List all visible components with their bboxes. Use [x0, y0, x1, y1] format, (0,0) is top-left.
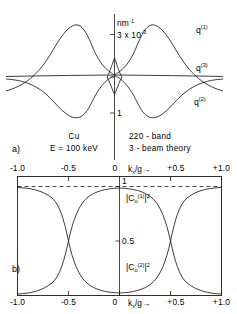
curve-label-q2: q(2) [194, 96, 206, 107]
panel-b-top-xtick-label-4: +1.0 [213, 163, 230, 173]
panel-a-unit-label: nm-1 [117, 18, 134, 28]
panel-b: -1.0 -0.5 0 +0.5 +1.0 kx/g→ -1.0 -0.5 0 … [10, 163, 230, 309]
annotation-material: Cu [68, 132, 79, 141]
figure-container: nm-1 3 x 10-3 1 q(1) q(3) q(2) Cu E = 10… [0, 0, 237, 314]
panel-b-top-xtick-label-3: +0.5 [167, 163, 184, 173]
panel-b-top-xtick-label-1: -0.5 [61, 163, 76, 173]
curve-label-q3: q(3) [196, 62, 208, 73]
panel-a-label: a) [12, 144, 20, 154]
panel-b-top-x-axis-label: kx/g→ [128, 164, 150, 175]
panel-a-tick-top-label: 3 x 10-3 [117, 29, 146, 39]
panel-b-ytick-label-0.5: 0.5 [122, 236, 134, 246]
figure-svg: nm-1 3 x 10-3 1 q(1) q(3) q(2) Cu E = 10… [0, 0, 237, 314]
panel-b-bottom-xtick-label-0: -1.0 [10, 297, 25, 307]
panel-b-top-xtick-label-0: -1.0 [10, 163, 25, 173]
panel-b-bottom-xtick-label-3: +0.5 [167, 297, 184, 307]
panel-a: nm-1 3 x 10-3 1 q(1) q(3) q(2) Cu E = 10… [6, 14, 223, 160]
panel-b-bottom-xtick-label-2: 0 [113, 297, 118, 307]
panel-b-top-xtick-label-2: 0 [113, 163, 118, 173]
panel-b-bottom-x-axis-label: kx/g→ [128, 298, 150, 309]
curve-label-Co1-squared: |Co(1)|2 [126, 193, 150, 205]
curve-label-q1: q(1) [196, 24, 208, 35]
annotation-energy: E = 100 keV [50, 144, 98, 153]
panel-b-bottom-xtick-label-1: -0.5 [61, 297, 76, 307]
panel-b-label: b) [12, 264, 20, 274]
annotation-theory: 3 - beam theory [129, 144, 191, 153]
panel-b-bottom-xtick-label-4: +1.0 [213, 297, 230, 307]
panel-b-ytick-label-1: 1 [122, 176, 127, 186]
curve-label-Co2-squared: |Co(2)|2 [126, 262, 150, 274]
annotation-band: 220 - band [129, 132, 171, 141]
panel-a-tick-bottom-label: 1 [117, 108, 122, 118]
